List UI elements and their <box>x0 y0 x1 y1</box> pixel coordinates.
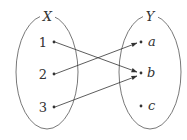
dot-b <box>140 72 143 75</box>
dot-1 <box>53 41 56 44</box>
arrow-3-to-b <box>55 76 137 107</box>
set-y-label: Y <box>146 9 156 24</box>
element-c: c <box>148 98 156 113</box>
set-mapping-diagram: X Y 1 2 3 a b c <box>0 0 187 140</box>
dot-a <box>140 41 143 44</box>
arrow-1-to-b <box>55 42 137 72</box>
element-2: 2 <box>39 67 47 82</box>
element-b: b <box>147 65 155 80</box>
dot-c <box>140 105 143 108</box>
dot-2 <box>53 73 56 76</box>
element-1: 1 <box>39 35 47 50</box>
element-3: 3 <box>39 100 47 115</box>
element-a: a <box>148 34 156 49</box>
arrow-2-to-a <box>55 43 137 74</box>
set-x-label: X <box>42 9 53 24</box>
dot-3 <box>53 106 56 109</box>
